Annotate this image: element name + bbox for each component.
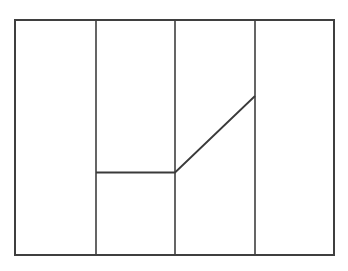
schematic-diagram — [0, 0, 348, 271]
canvas-background — [0, 0, 348, 271]
figure-canvas — [0, 0, 348, 271]
